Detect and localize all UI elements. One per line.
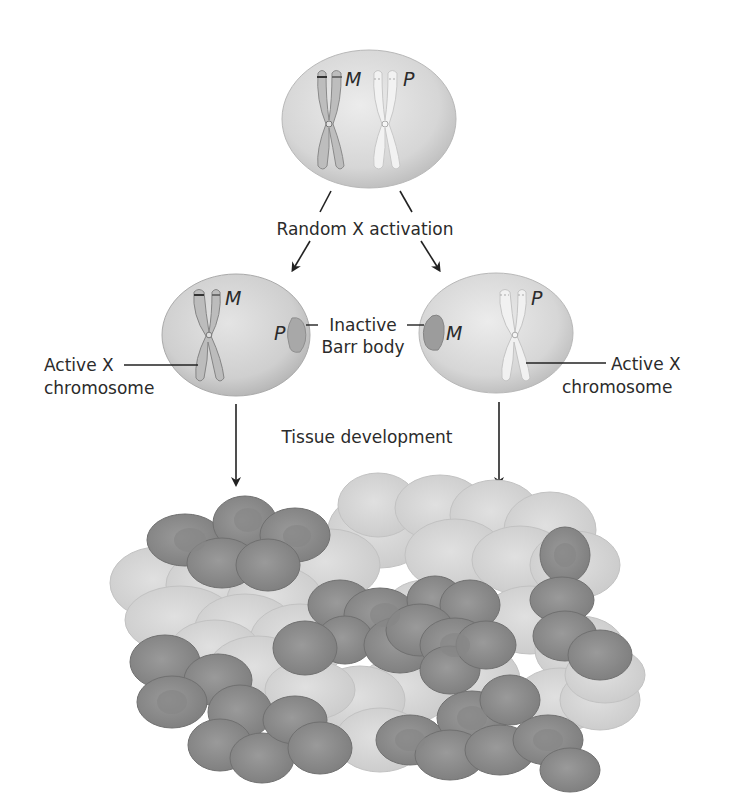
paternal-label: P <box>403 68 415 90</box>
arrow-to-left-cell <box>294 241 310 268</box>
left-active-callout-line1: Active X <box>44 355 114 375</box>
tissue-mosaic <box>110 473 645 792</box>
branch-line-left <box>320 191 331 212</box>
right-active-callout-line1: Active X <box>611 354 681 374</box>
random-x-activation-label: Random X activation <box>276 219 453 239</box>
right-active-callout-line2: chromosome <box>562 377 672 397</box>
top-cell: M P <box>282 50 456 188</box>
left-barr-body-icon <box>288 318 306 353</box>
branch-line-right <box>400 191 412 212</box>
left-active-label: M <box>225 287 241 309</box>
left-barr-label: P <box>274 322 286 344</box>
tissue-development-label: Tissue development <box>280 427 452 447</box>
right-active-label: P <box>531 287 543 309</box>
maternal-label: M <box>345 68 361 90</box>
right-barr-label: M <box>446 322 462 344</box>
inactive-label: Inactive <box>329 315 396 335</box>
barr-body-label: Barr body <box>321 337 404 357</box>
right-cell: P M <box>419 273 573 393</box>
left-active-callout-line2: chromosome <box>44 378 154 398</box>
arrow-to-right-cell <box>421 241 438 268</box>
left-cell: M P <box>162 274 310 396</box>
x-inactivation-diagram: M P Random X activation M P <box>0 0 729 800</box>
